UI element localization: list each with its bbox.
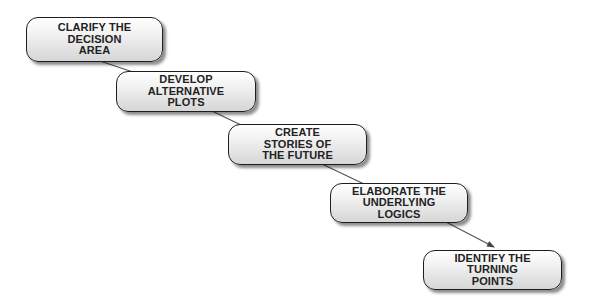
diagram-canvas: CLARIFY THE DECISION AREA DEVELOP ALTERN… <box>0 0 594 304</box>
step-identify-turning-points: IDENTIFY THE TURNING POINTS <box>423 250 562 290</box>
connector-step3-step4 <box>322 164 364 184</box>
connector-step4-step5-arrow <box>446 222 494 247</box>
step-label: CLARIFY THE DECISION AREA <box>58 22 132 57</box>
step-create-stories-of-the-future: CREATE STORIES OF THE FUTURE <box>228 124 367 165</box>
step-elaborate-underlying-logics: ELABORATE THE UNDERLYING LOGICS <box>330 183 468 223</box>
connector-step2-step3 <box>212 111 241 125</box>
step-label: DEVELOP ALTERNATIVE PLOTS <box>148 74 224 109</box>
step-label: ELABORATE THE UNDERLYING LOGICS <box>352 186 446 221</box>
step-label: CREATE STORIES OF THE FUTURE <box>262 127 333 162</box>
step-develop-alternative-plots: DEVELOP ALTERNATIVE PLOTS <box>116 71 256 112</box>
step-clarify-decision-area: CLARIFY THE DECISION AREA <box>26 17 163 62</box>
step-label: IDENTIFY THE TURNING POINTS <box>454 253 530 288</box>
